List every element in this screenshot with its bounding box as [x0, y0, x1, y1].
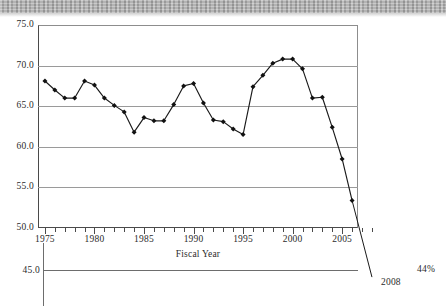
- projection-year-label: 2008: [381, 277, 401, 287]
- data-point-marker: [201, 100, 206, 105]
- y-axis-extra-label: 45.0: [8, 265, 40, 275]
- data-point-marker: [181, 83, 186, 88]
- figure-root: 50.055.060.065.070.075.0 197519801985199…: [0, 0, 446, 306]
- lower-horizontal-rule: [43, 270, 358, 271]
- data-point-marker: [241, 132, 246, 137]
- data-point-marker: [310, 96, 315, 101]
- series-line: [45, 59, 352, 200]
- data-point-marker: [72, 96, 77, 101]
- data-point-marker: [280, 57, 285, 62]
- lower-vertical-rule: [43, 243, 44, 306]
- data-point-marker: [161, 118, 166, 123]
- x-axis-title-text: Fiscal Year: [176, 249, 220, 259]
- data-point-marker: [320, 95, 325, 100]
- data-point-marker: [350, 198, 355, 203]
- data-point-marker: [171, 102, 176, 107]
- data-point-marker: [191, 81, 196, 86]
- line-chart: 50.055.060.065.070.075.0 197519801985199…: [0, 0, 446, 306]
- projection-line: [352, 200, 372, 276]
- x-axis-title: Fiscal Year: [0, 249, 446, 259]
- projection-value-label: 44%: [417, 264, 435, 274]
- data-point-marker: [211, 118, 216, 123]
- data-point-marker: [330, 125, 335, 130]
- data-point-marker: [82, 79, 87, 84]
- data-series-layer: [0, 0, 446, 306]
- data-point-markers: [42, 57, 354, 203]
- data-point-marker: [340, 156, 345, 161]
- data-point-marker: [151, 118, 156, 123]
